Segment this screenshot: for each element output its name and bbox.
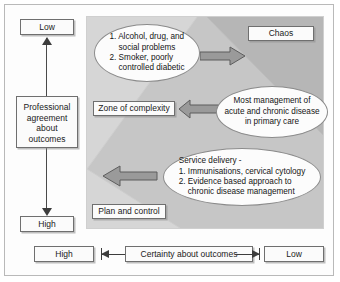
ellipse-top-line-4: controlled diabetic: [110, 63, 185, 73]
diagram-canvas: Chaos 1. Alcohol, drug, and social probl…: [0, 0, 340, 282]
ellipse-middle-line-3: in primary care: [224, 117, 319, 127]
arrow-left-icon-bottom: [102, 165, 158, 187]
ellipse-bottom-line-2: 2. Evidence based approach to: [179, 177, 306, 187]
ellipse-middle-line-2: acute and chronic disease: [224, 107, 319, 117]
arrow-left-icon: [178, 99, 220, 119]
arrow-down-icon: [42, 208, 52, 216]
y-axis-title-line-1: Professional: [17, 102, 77, 113]
x-axis-group: High Certainty about outcomes Low: [8, 243, 330, 267]
arrow-right-icon-axis: [252, 250, 260, 258]
x-axis-right-label: Low: [286, 249, 302, 260]
ellipse-alcohol-drug-social: 1. Alcohol, drug, and social problems 2.…: [94, 24, 200, 82]
ellipse-top-line-3: 2. Smoker, poorly: [110, 53, 185, 63]
ellipse-bottom-line-1: 1. Immunisations, cervical cytology: [179, 167, 306, 177]
ellipse-most-management: Most management of acute and chronic dis…: [216, 86, 328, 138]
arrow-left-icon-axis: [101, 250, 109, 258]
chaos-label: Chaos: [269, 28, 294, 39]
y-axis-bottom-label-box: High: [20, 216, 74, 232]
y-axis-title-line-4: outcomes: [17, 134, 77, 145]
y-axis-title-box: Professional agreement about outcomes: [16, 96, 78, 148]
y-axis-bottom-label: High: [38, 219, 55, 230]
x-axis-right-label-box: Low: [264, 246, 324, 262]
plan-and-control-box: Plan and control: [92, 204, 166, 219]
x-axis-title-box: Certainty about outcomes: [125, 246, 253, 262]
y-axis-top-label-box: Low: [20, 19, 74, 35]
x-axis-title: Certainty about outcomes: [141, 249, 238, 260]
arrow-up-icon: [42, 37, 52, 45]
x-axis-left-label: High: [55, 249, 72, 260]
plan-and-control-label: Plan and control: [98, 206, 159, 217]
y-axis-top-label: Low: [39, 22, 55, 33]
ellipse-top-list: 1. Alcohol, drug, and social problems 2.…: [110, 32, 185, 74]
ellipse-bottom-list: 1. Immunisations, cervical cytology 2. E…: [179, 167, 306, 198]
ellipse-middle-line-1: Most management of: [224, 96, 319, 106]
chaos-box: Chaos: [248, 26, 314, 41]
ellipse-bottom-heading: Service delivery -: [179, 156, 306, 166]
ellipse-top-line-1: 1. Alcohol, drug, and: [110, 32, 185, 42]
ellipse-bottom-line-3: chronic disease management: [179, 187, 306, 197]
ellipse-service-delivery: Service delivery - 1. Immunisations, cer…: [163, 148, 321, 206]
ellipse-top-line-2: social problems: [110, 43, 185, 53]
zone-of-complexity-box: Zone of complexity: [93, 101, 175, 116]
zone-of-complexity-label: Zone of complexity: [98, 103, 169, 114]
y-axis-title-line-3: about: [17, 123, 77, 134]
y-axis-title-line-2: agreement: [17, 113, 77, 124]
x-axis-left-label-box: High: [34, 246, 94, 262]
arrow-right-icon: [200, 46, 246, 66]
